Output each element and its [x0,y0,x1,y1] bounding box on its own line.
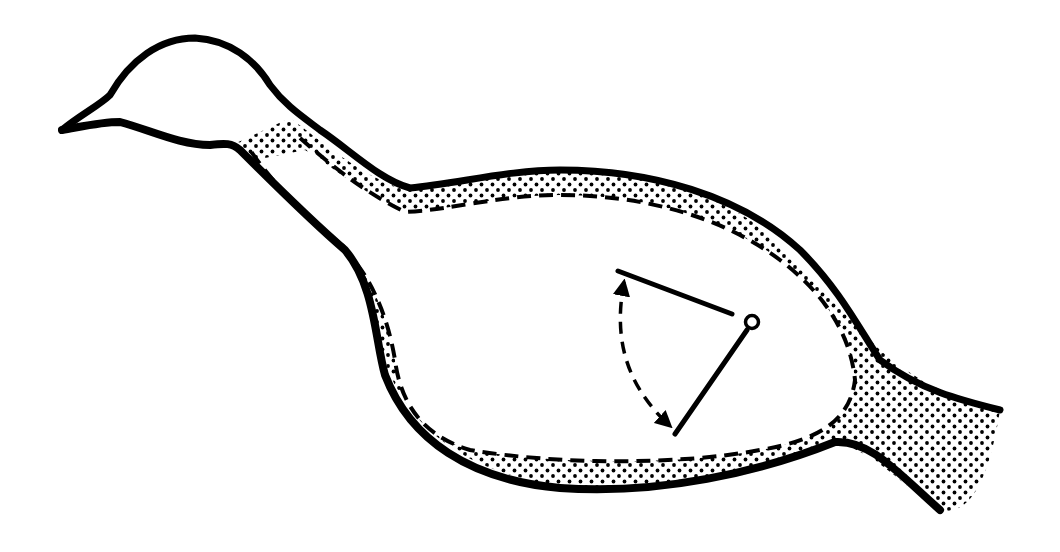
stipple-layer [232,118,1000,511]
rotation-arc-arrow [620,282,670,426]
arm-upper [618,271,732,314]
bird-diagram [0,0,1060,552]
diagram-canvas [0,0,1060,552]
angle-mechanism [618,271,759,434]
pivot-circle [746,316,759,329]
arm-lower [675,330,747,434]
